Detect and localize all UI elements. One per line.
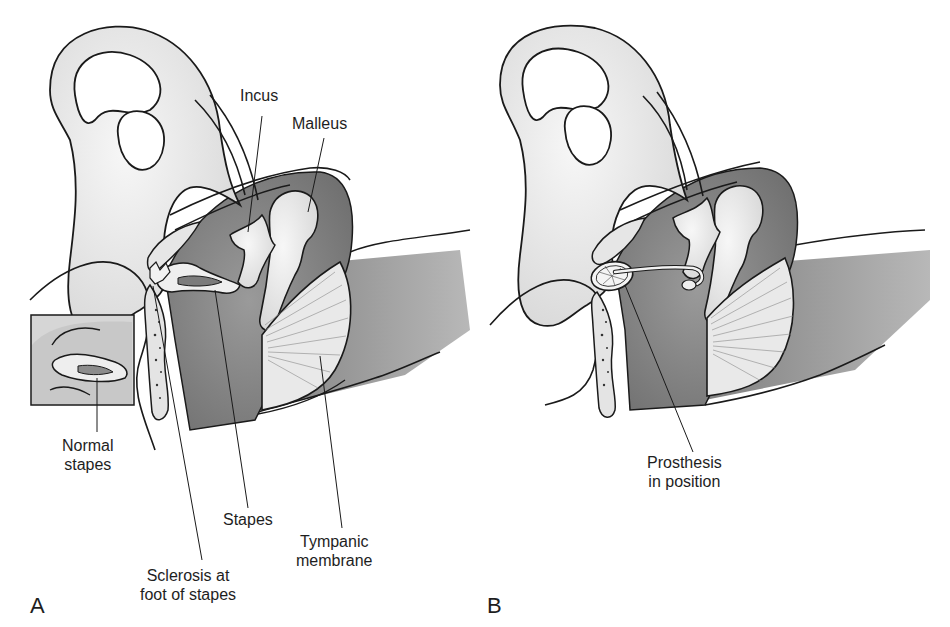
label-malleus: Malleus [292, 114, 347, 133]
ear-illustration-otosclerosis [0, 0, 475, 627]
ear-illustration-prosthesis [475, 0, 950, 627]
label-normal-stapes: Normal stapes [62, 436, 114, 474]
label-stapes: Stapes [223, 510, 273, 529]
panel-a-otosclerosis: Incus Malleus Normal stapes Stapes Scler… [0, 0, 475, 627]
label-prosthesis: Prosthesis in position [647, 453, 722, 491]
panel-letter-b: B [487, 594, 502, 618]
normal-stapes-inset [31, 315, 134, 405]
label-sclerosis: Sclerosis at foot of stapes [140, 566, 236, 604]
label-incus: Incus [240, 86, 278, 105]
panel-b-prosthesis: Prosthesis in position B [475, 0, 950, 627]
panel-letter-a: A [30, 594, 45, 618]
label-tympanic-membrane: Tympanic membrane [296, 532, 372, 570]
